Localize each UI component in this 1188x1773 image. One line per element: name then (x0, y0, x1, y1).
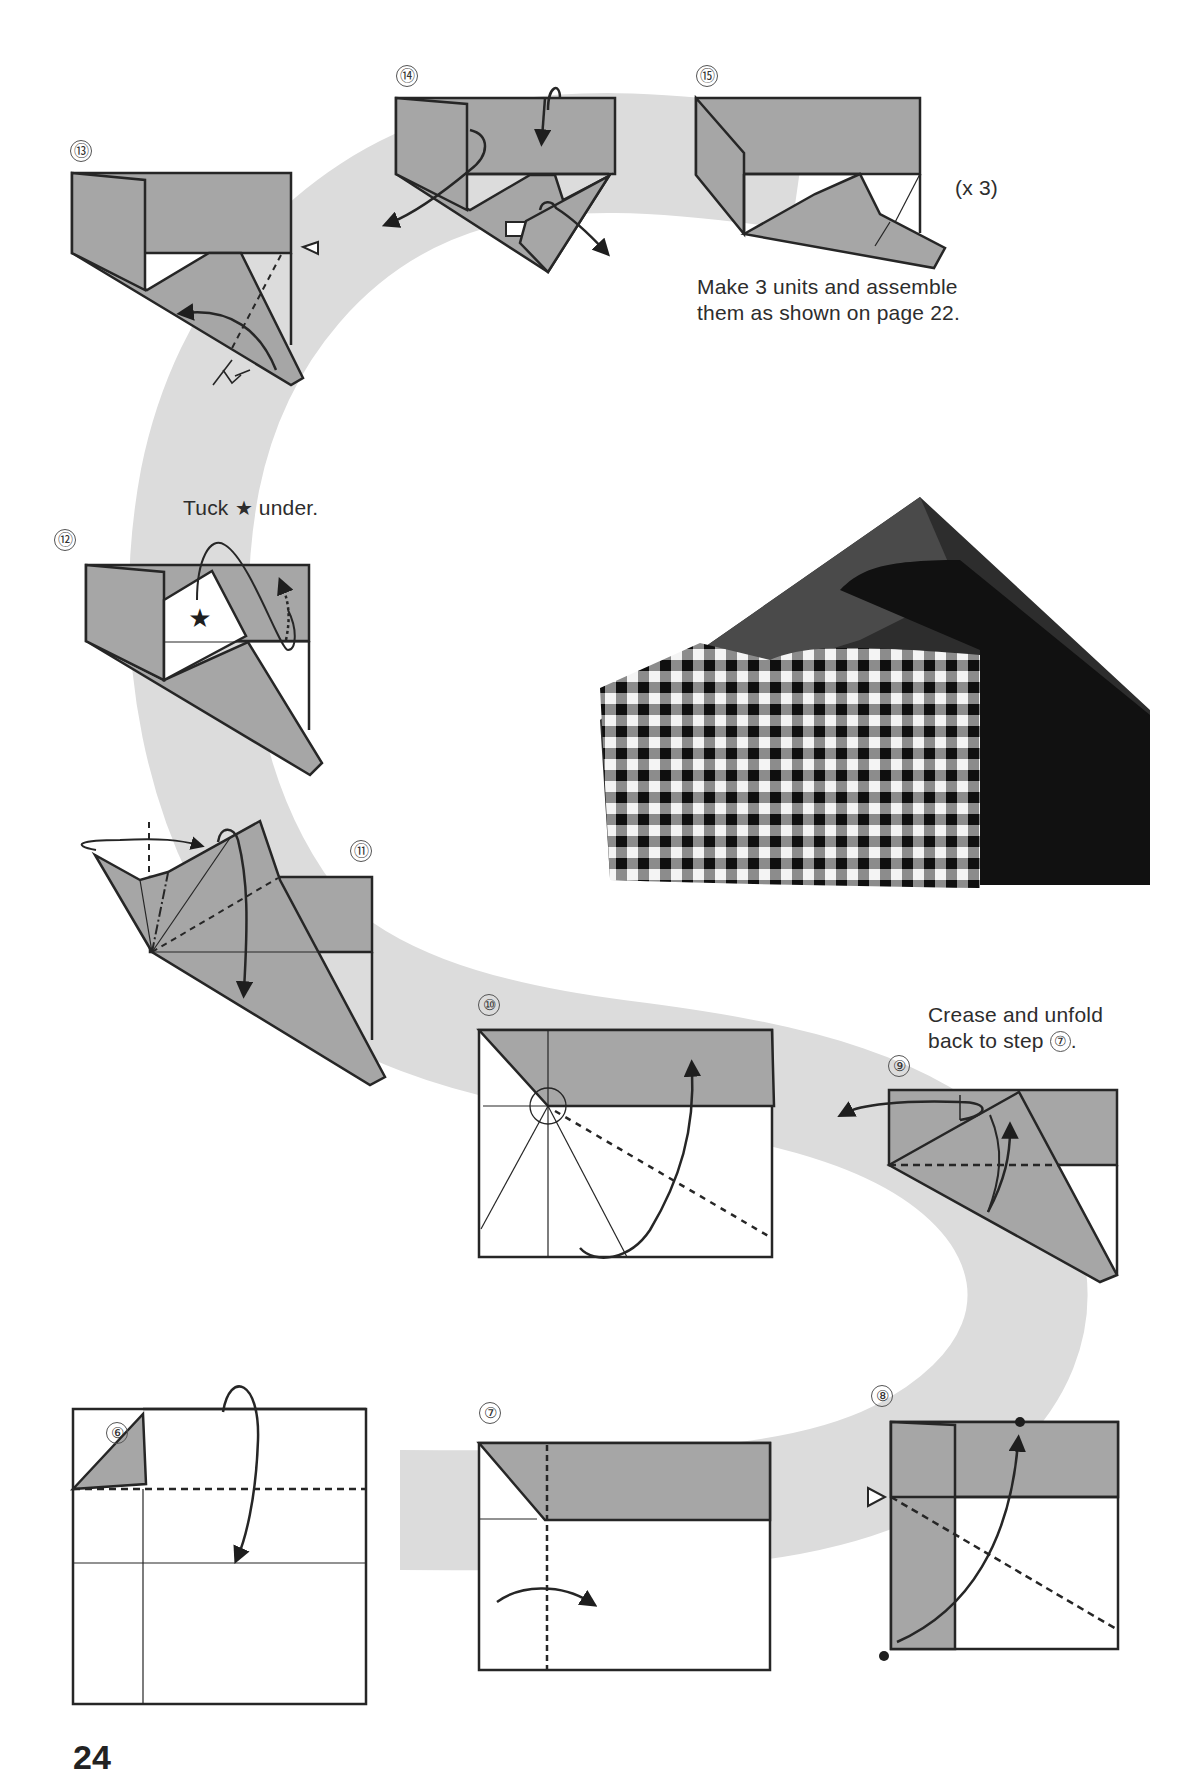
step-15-number: ⑮ (696, 65, 718, 87)
crease-line-2-text: back to step (928, 1029, 1050, 1052)
assembly-line-2: them as shown on page 22. (697, 300, 960, 326)
step-8-number: ⑧ (871, 1385, 893, 1407)
finished-model-photo (600, 497, 1150, 888)
step-ref-number: ⑦ (1050, 1031, 1071, 1052)
tuck-instruction: Tuck ★ under. (183, 495, 318, 521)
step-12-number: ⑫ (54, 529, 76, 551)
multiplier-note: (x 3) (955, 175, 998, 201)
step-6-number: ⑥ (106, 1422, 128, 1444)
step-15-diagram (696, 98, 945, 268)
svg-text:★: ★ (188, 603, 211, 633)
tuck-prefix: Tuck (183, 496, 235, 519)
step-11-diagram (82, 821, 385, 1085)
assembly-instructions: Make 3 units and assemble them as shown … (697, 274, 960, 326)
assembly-line-1: Make 3 units and assemble (697, 274, 960, 300)
crease-line-2: back to step ⑦. (928, 1028, 1103, 1054)
crease-instruction: Crease and unfold back to step ⑦. (928, 1002, 1103, 1054)
step-14-number: ⑭ (396, 65, 418, 87)
step-8-diagram (868, 1417, 1118, 1661)
page-number: 24 (73, 1738, 111, 1773)
step-10-number: ⑩ (478, 994, 500, 1016)
crease-line-2-suffix: . (1071, 1029, 1077, 1052)
tuck-suffix: under. (253, 496, 319, 519)
step-7-number: ⑦ (479, 1402, 501, 1424)
step-13-number: ⑬ (70, 140, 92, 162)
step-7-diagram (479, 1443, 770, 1670)
step-10-diagram (479, 1030, 774, 1258)
step-11-number: ⑪ (350, 840, 372, 862)
star-icon: ★ (235, 497, 253, 519)
crease-line-1: Crease and unfold (928, 1002, 1103, 1028)
step-9-number: ⑨ (888, 1055, 910, 1077)
